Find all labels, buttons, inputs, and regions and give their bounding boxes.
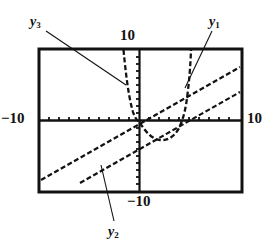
- curve-label-y1: y1: [209, 15, 220, 29]
- graphing-calculator-figure: 10 −10 −10 10 y3 y1 y2: [0, 0, 275, 249]
- axis-label-right: 10: [247, 111, 262, 126]
- curve-label-y3: y3: [30, 15, 41, 29]
- axis-label-top: 10: [120, 28, 135, 43]
- curve-label-y3-subscript: 3: [36, 20, 41, 30]
- plot-canvas: [0, 0, 275, 249]
- curve-label-y1-subscript: 1: [215, 20, 220, 30]
- curve-label-y2-subscript: 2: [114, 230, 119, 240]
- curve-label-y2: y2: [108, 225, 119, 239]
- axis-label-bottom: −10: [127, 194, 151, 209]
- axis-label-left: −10: [1, 111, 25, 126]
